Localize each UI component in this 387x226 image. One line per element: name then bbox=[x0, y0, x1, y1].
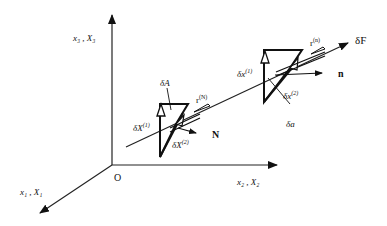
x1-axis-label: x₁ , X₁ bbox=[19, 187, 43, 197]
deformation-diagram: x₃ , X₃ x₁ , X₁ x₂ , X₂ O δF δA r(N) δX(… bbox=[0, 0, 387, 226]
traction-rn-label: r(n) bbox=[310, 37, 320, 48]
dX2-sup: (2) bbox=[182, 139, 189, 146]
x3-axis-label: x₃ , X₃ bbox=[72, 33, 96, 43]
dx1-symbol: δx bbox=[237, 69, 245, 79]
traction-rN-sup: (N) bbox=[199, 94, 207, 101]
origin-label: O bbox=[114, 172, 121, 183]
normal-n-label: n bbox=[338, 68, 344, 79]
dX1-symbol: δX bbox=[133, 123, 143, 133]
area-dA-label: δA bbox=[160, 78, 170, 88]
traction-rN-label: r(N) bbox=[196, 94, 207, 105]
x2-axis-label: x₂ , X₂ bbox=[236, 177, 260, 187]
dx2-label: δx(2) bbox=[283, 90, 298, 101]
dx2-symbol: δx bbox=[283, 91, 291, 101]
force-label: δF bbox=[355, 34, 366, 46]
dX2-label: δX(2) bbox=[172, 139, 189, 150]
dX1-label: δX(1) bbox=[133, 122, 150, 133]
x1-axis bbox=[40, 165, 112, 213]
dx1-sup: (1) bbox=[245, 68, 252, 75]
normal-N-label: N bbox=[212, 129, 220, 140]
dX1-sup: (1) bbox=[143, 122, 150, 129]
dx2-sup: (2) bbox=[291, 90, 298, 97]
dx1-label: δx(1) bbox=[237, 68, 252, 79]
traction-rn-sup: (n) bbox=[313, 37, 320, 44]
normal-N-arrow bbox=[178, 128, 196, 133]
area-da-label: δa bbox=[286, 119, 295, 129]
dX2-symbol: δX bbox=[172, 140, 182, 150]
